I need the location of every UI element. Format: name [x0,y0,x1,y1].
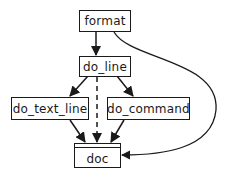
node-label: do_text_line [13,102,88,116]
edge-do-line-do-command [117,76,133,96]
node-doc: doc [74,143,121,168]
data-store-bar [75,147,120,148]
edge-do-text-line-doc [70,120,85,142]
node-do-command: do_command [107,97,190,120]
node-do-line: do_line [79,56,131,77]
edge-format-doc [114,32,216,155]
edge-do-line-do-text-line [70,76,88,96]
node-label: doc [86,152,108,166]
node-format: format [79,10,131,32]
node-do-text-line: do_text_line [11,97,89,120]
node-label: format [84,14,125,28]
node-label: do_line [83,60,127,74]
edge-do-command-doc [111,120,124,142]
node-label: do_command [107,102,190,116]
